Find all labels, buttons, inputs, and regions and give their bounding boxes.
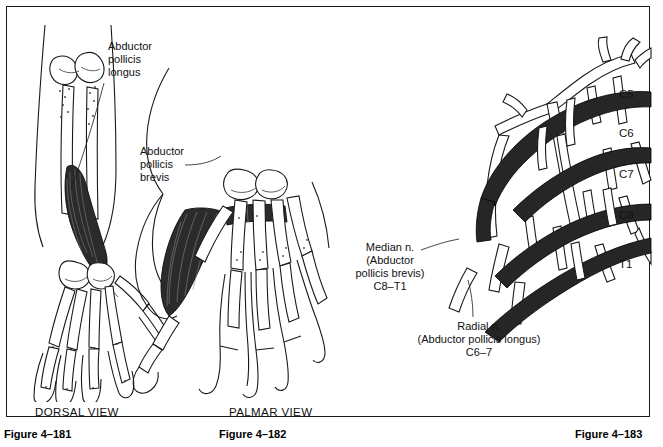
label-median-nerve: Median n. (Abductor pollicis brevis) C8–… xyxy=(347,241,433,293)
caption-dorsal-view: DORSAL VIEW xyxy=(35,406,119,418)
palmar-hand-svg xyxy=(117,62,332,402)
figure-number-4-183: Figure 4–183 xyxy=(575,428,642,440)
brachial-plexus-svg xyxy=(407,32,652,342)
label-abductor-pollicis-longus: Abductor pollicis longus xyxy=(108,40,152,79)
label-radial-nerve: Radial n. (Abductor pollicis longus) C6–… xyxy=(406,320,552,359)
root-label-c8: C8 xyxy=(619,209,634,221)
figure-plate-page: Abductor pollicis longus Abductor pollic… xyxy=(0,0,663,447)
root-label-c5: C5 xyxy=(619,88,634,100)
root-label-c7: C7 xyxy=(619,168,634,180)
figure-number-4-182: Figure 4–182 xyxy=(219,428,286,440)
brachial-plexus-illustration xyxy=(407,32,652,342)
label-abductor-pollicis-brevis: Abductor pollicis brevis xyxy=(140,145,184,184)
caption-palmar-view: PALMAR VIEW xyxy=(229,406,312,418)
root-label-c6: C6 xyxy=(619,127,634,139)
figure-number-4-181: Figure 4–181 xyxy=(4,428,71,440)
plate-frame: Abductor pollicis longus Abductor pollic… xyxy=(6,6,650,417)
palmar-view-illustration xyxy=(117,62,332,402)
root-label-t1: T1 xyxy=(619,258,632,270)
